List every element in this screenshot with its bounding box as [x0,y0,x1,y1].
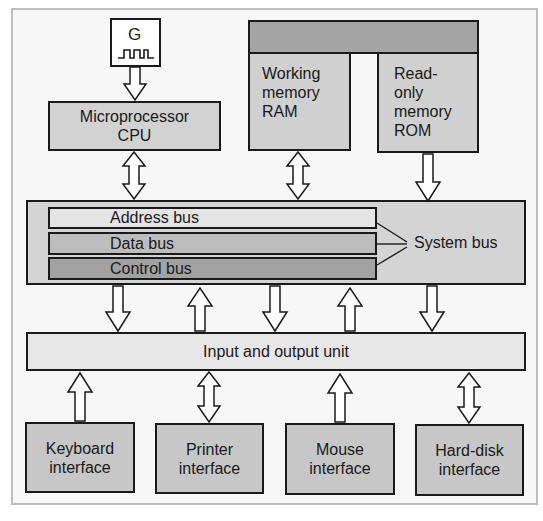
cpu-box: Microprocessor CPU [48,101,221,151]
address-bus-label: Address bus [110,209,199,227]
rom-label-line4: ROM [394,121,431,140]
control-bus: Control bus [48,257,377,280]
rom-box: Read- only memory ROM [377,52,479,153]
printer-interface-line2: interface [179,459,240,478]
keyboard-interface-line1: Keyboard [46,439,115,458]
printer-interface-box: Printer interface [155,423,264,494]
rom-label-line3: memory [394,102,452,121]
hard-disk-interface-line2: interface [439,460,500,479]
system-bus-label: System bus [414,234,498,252]
data-bus: Data bus [48,232,377,255]
memory-header-bar [248,20,479,54]
ram-label-line2: memory [262,83,320,102]
keyboard-interface-box: Keyboard interface [25,422,135,493]
rom-label-line1: Read- [394,64,438,83]
cpu-label-line1: Microprocessor [80,107,189,126]
ram-label-line1: Working [262,64,320,83]
mouse-interface-box: Mouse interface [285,423,395,495]
control-bus-label: Control bus [110,260,192,278]
printer-interface-line1: Printer [186,440,233,459]
ram-box: Working memory RAM [248,52,351,151]
rom-label-line2: only [394,83,423,102]
clock-generator-box: G [110,18,161,67]
cpu-label-line2: CPU [118,126,152,145]
hard-disk-interface-line1: Hard-disk [435,441,503,460]
clock-pulse-icon [118,48,154,60]
address-bus: Address bus [48,207,377,229]
mouse-interface-line1: Mouse [316,440,364,459]
data-bus-label: Data bus [110,235,174,253]
keyboard-interface-line2: interface [49,458,110,477]
clock-generator-label: G [128,25,141,44]
mouse-interface-line2: interface [309,459,370,478]
hard-disk-interface-box: Hard-disk interface [415,424,524,496]
io-unit-box: Input and output unit [26,332,526,371]
ram-label-line3: RAM [262,102,298,121]
io-unit-label: Input and output unit [203,342,349,361]
